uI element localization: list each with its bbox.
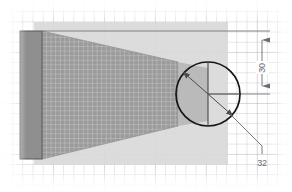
drawing-canvas: 30 32 — [0, 0, 292, 192]
taper-transition-face — [178, 62, 208, 126]
diameter-callout-value: 32 — [257, 158, 267, 168]
diameter-callout-leader — [229, 113, 262, 154]
left-end-block — [20, 31, 42, 159]
engineering-drawing: 30 32 — [0, 0, 292, 192]
height-dimension-value: 30 — [257, 63, 267, 73]
